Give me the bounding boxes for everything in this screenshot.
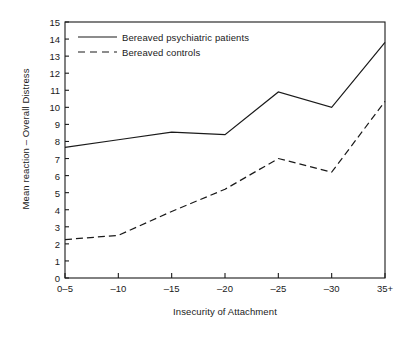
x-tick-label: –30 [309,283,355,294]
y-tick-label: 15 [38,17,60,28]
y-tick-label: 3 [38,221,60,232]
x-tick-label: –20 [202,283,248,294]
data-series-group [65,42,385,239]
y-tick-label: 8 [38,136,60,147]
series-line-0 [65,42,385,147]
x-axis-title: Insecurity of Attachment [65,306,385,317]
y-tick-label: 9 [38,119,60,130]
legend-label-0: Bereaved psychiatric patients [122,32,249,43]
x-tick-label: –25 [255,283,301,294]
y-tick-label: 1 [38,255,60,266]
y-tick-label: 11 [38,85,60,96]
x-tick-label: 0–5 [42,283,88,294]
y-tick-label: 13 [38,51,60,62]
legend-label-1: Bereaved controls [122,47,200,58]
y-tick-label: 7 [38,153,60,164]
x-tick-label: 35+ [362,283,407,294]
x-axis-ticks [65,273,385,278]
x-tick-label: –10 [95,283,141,294]
legend-line-samples [78,37,117,52]
axis-frame [65,22,385,278]
chart-figure: Mean reaction – Overall Distress 0123456… [0,0,407,338]
x-tick-label: –15 [149,283,195,294]
y-tick-label: 4 [38,204,60,215]
y-tick-label: 10 [38,102,60,113]
y-tick-label: 0 [38,273,60,284]
y-tick-label: 2 [38,238,60,249]
y-tick-label: 6 [38,170,60,181]
y-tick-label: 5 [38,187,60,198]
y-tick-label: 14 [38,34,60,45]
series-line-1 [65,101,385,239]
y-tick-label: 12 [38,68,60,79]
